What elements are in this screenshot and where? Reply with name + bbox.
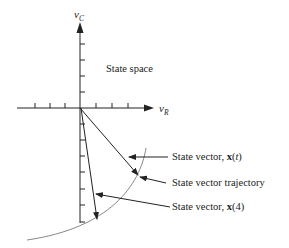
leader-line-x4 [96,194,170,207]
vertical-axis: vC [74,8,85,223]
horizontal-axis-arrow-icon [144,105,154,112]
annotation-state-vector-xt: State vector, x(t) [172,151,242,163]
state-vector-trajectory-curve [27,148,146,240]
state-space-label: State space [106,63,153,74]
horizontal-axis-label: vR [159,102,169,117]
horizontal-axis: vR [17,102,169,117]
vertical-axis-arrow-icon [77,22,84,33]
state-space-diagram: vR vC State s [0,0,289,248]
horizontal-axis-ticks [35,103,128,108]
leader-line-trajectory [140,177,166,183]
state-vector-xt-arrow [80,108,138,175]
vertical-axis-label: vC [74,8,85,23]
annotation-state-vector-x4: State vector, x(4) [172,201,245,213]
annotation-state-vector-trajectory: State vector trajectory [172,177,265,188]
